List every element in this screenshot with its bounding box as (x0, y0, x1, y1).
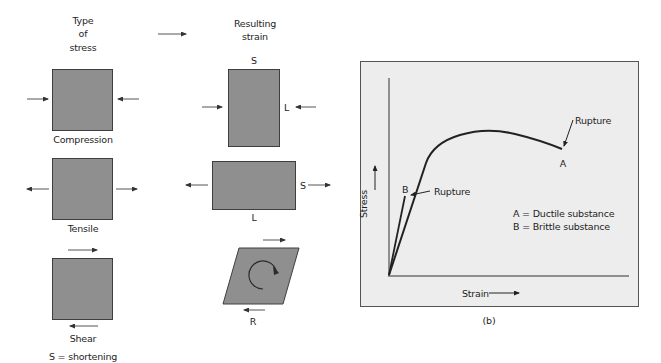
rupture-a-label: Rupture (575, 115, 611, 126)
rupture-b-label: Rupture (434, 186, 470, 197)
rupture-a-arrow-icon (564, 120, 573, 146)
y-axis-label: Stress (358, 190, 369, 218)
ductile-curve-a (389, 131, 562, 275)
rupture-b-arrow-icon (411, 191, 430, 195)
point-b-label: B (402, 184, 408, 195)
legend-a: A = Ductile substance (513, 208, 614, 219)
x-axis-label: Strain (462, 288, 489, 299)
stress-strain-chart (0, 0, 661, 363)
legend-b: B = Brittle substance (513, 221, 610, 232)
point-a-label: A (560, 158, 566, 169)
figure-caption: (b) (483, 315, 496, 326)
